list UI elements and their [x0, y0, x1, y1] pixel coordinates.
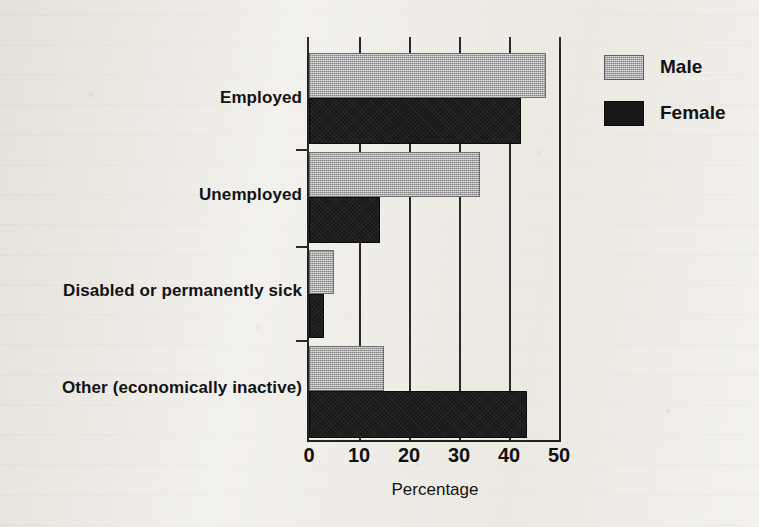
- category-label-other-economically-inactive: Other (economically inactive): [20, 378, 302, 398]
- top-tick-50: [559, 37, 561, 50]
- x-tick-label-30: 30: [448, 444, 470, 467]
- bar-other-male: [309, 346, 384, 391]
- x-tick-label-50: 50: [548, 444, 570, 467]
- category-separator-tick-2: [296, 246, 309, 248]
- x-axis-title: Percentage: [309, 480, 561, 500]
- x-axis-line: [307, 440, 561, 442]
- plot-right-border: [559, 38, 561, 440]
- bar-employed-male: [309, 53, 546, 98]
- category-label-unemployed: Unemployed: [20, 185, 302, 205]
- bar-other-female: [309, 391, 527, 438]
- bar-disabled-female: [309, 294, 324, 338]
- category-label-employed: Employed: [20, 88, 302, 108]
- legend-item-male: Male: [604, 44, 754, 90]
- category-separator-tick-3: [296, 340, 309, 342]
- x-tick-label-20: 20: [398, 444, 420, 467]
- bar-unemployed-female: [309, 197, 380, 243]
- plot-area: [309, 50, 561, 440]
- chart-legend: Male Female: [604, 44, 754, 136]
- bar-employed-female: [309, 98, 521, 144]
- top-tick-20: [409, 37, 411, 50]
- category-label-disabled-or-permanently-sick: Disabled or permanently sick: [20, 281, 302, 301]
- bar-disabled-male: [309, 250, 334, 294]
- top-tick-0: [307, 37, 309, 50]
- grouped-bar-chart: Employed Unemployed Disabled or permanen…: [0, 0, 759, 527]
- legend-label-female: Female: [660, 102, 725, 124]
- x-tick-label-40: 40: [498, 444, 520, 467]
- top-tick-40: [509, 37, 511, 50]
- legend-label-male: Male: [660, 56, 702, 78]
- legend-swatch-female-icon: [604, 101, 644, 126]
- bar-unemployed-male: [309, 152, 480, 197]
- category-separator-tick-1: [296, 149, 309, 151]
- x-tick-label-10: 10: [348, 444, 370, 467]
- legend-swatch-male-icon: [604, 55, 644, 80]
- legend-item-female: Female: [604, 90, 754, 136]
- top-tick-30: [459, 37, 461, 50]
- top-tick-10: [359, 37, 361, 50]
- x-tick-label-0: 0: [303, 444, 314, 467]
